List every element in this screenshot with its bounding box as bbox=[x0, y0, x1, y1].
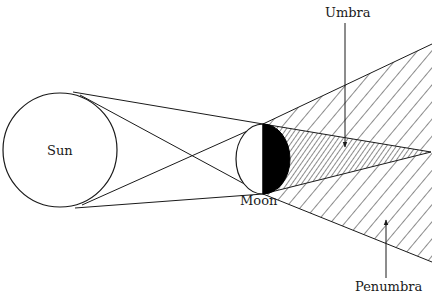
umbra-label: Umbra bbox=[325, 5, 371, 20]
sun-label: Sun bbox=[47, 143, 73, 158]
outer-tangent-bottom bbox=[75, 194, 263, 208]
eclipse-diagram: Sun Moon Umbra Penumbra bbox=[0, 0, 435, 295]
moon-label: Moon bbox=[240, 193, 278, 208]
penumbra-label: Penumbra bbox=[355, 279, 422, 294]
